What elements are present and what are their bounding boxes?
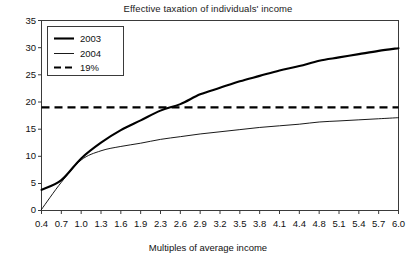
x-axis-tick-labels: 0.40.71.01.31.61.92.32.62.93.23.53.84.14… — [35, 218, 405, 229]
x-tick-label: 4.8 — [313, 218, 326, 229]
y-tick-label: 5 — [31, 177, 36, 188]
legend-label-2004: 2004 — [80, 48, 101, 59]
chart-figure: Effective taxation of individuals' incom… — [0, 0, 416, 265]
x-tick-label: 1.9 — [134, 218, 147, 229]
y-axis-tick-labels: 35 30 25 20 15 10 5 0 — [25, 15, 36, 215]
x-tick-label: 1.3 — [94, 218, 107, 229]
x-tick-label: 2.3 — [154, 218, 167, 229]
y-tick-label: 20 — [25, 96, 36, 107]
x-tick-label: 5.7 — [372, 218, 385, 229]
y-tick-label: 0 — [31, 204, 36, 215]
x-tick-label: 4.1 — [273, 218, 286, 229]
x-axis-ticks — [42, 211, 399, 215]
y-tick-label: 10 — [25, 150, 36, 161]
legend-label-19-percent: 19% — [80, 62, 100, 73]
x-tick-label: 1.0 — [75, 218, 88, 229]
x-tick-label: 3.2 — [213, 218, 226, 229]
x-tick-label: 4.4 — [293, 218, 306, 229]
x-tick-label: 0.4 — [35, 218, 48, 229]
x-axis-title: Multiples of average income — [149, 242, 267, 253]
x-tick-label: 3.8 — [253, 218, 266, 229]
y-tick-label: 15 — [25, 123, 36, 134]
y-tick-label: 25 — [25, 69, 36, 80]
plot-area: 35 30 25 20 15 10 5 0 0.40.71.01.31.61.9… — [0, 0, 416, 265]
x-tick-label: 5.4 — [352, 218, 365, 229]
y-axis-ticks — [38, 21, 42, 211]
x-tick-label: 5.1 — [332, 218, 345, 229]
x-tick-label: 3.5 — [233, 218, 246, 229]
x-tick-label: 0.7 — [55, 218, 68, 229]
y-tick-label: 30 — [25, 42, 36, 53]
x-tick-label: 2.9 — [194, 218, 207, 229]
x-tick-label: 1.6 — [114, 218, 127, 229]
y-tick-label: 35 — [25, 15, 36, 26]
chart-legend: 2003 2004 19% — [48, 27, 124, 76]
x-tick-label: 6.0 — [392, 218, 405, 229]
x-tick-label: 2.6 — [174, 218, 187, 229]
legend-label-2003: 2003 — [80, 33, 101, 44]
